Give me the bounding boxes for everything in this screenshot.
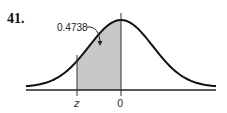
area-label: 0.4738	[57, 22, 88, 33]
zero-label: 0	[117, 98, 123, 109]
normal-curve-diagram: 0.4738 z 0	[0, 0, 227, 113]
z-label: z	[73, 98, 80, 109]
